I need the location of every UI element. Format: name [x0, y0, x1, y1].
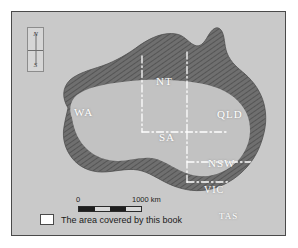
scale-bar-segment [79, 207, 95, 211]
scale-bar-segment [95, 207, 111, 211]
scale-bar: 0 1000 km [78, 195, 156, 212]
scale-bar-segments [78, 206, 142, 212]
legend: The area covered by this book [40, 214, 182, 225]
legend-label: The area covered by this book [61, 215, 182, 225]
scale-bar-segment [126, 207, 142, 211]
scale-bar-labels: 0 1000 km [78, 195, 156, 205]
scale-bar-segment [110, 207, 126, 211]
scale-bar-min-label: 0 [76, 195, 80, 204]
compass-cross-line [28, 50, 43, 51]
legend-swatch-covered-area [40, 214, 54, 225]
map-figure: N S WA NT QLD SA NSW VIC TAS 0 1000 km T… [11, 11, 286, 236]
compass-south-label: S [28, 61, 43, 69]
scale-bar-max-label: 1000 km [132, 195, 161, 204]
compass-rose: N S [27, 27, 44, 72]
compass-north-label: N [28, 30, 43, 38]
